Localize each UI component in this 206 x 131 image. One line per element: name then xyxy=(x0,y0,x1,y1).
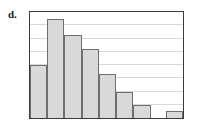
plot-area xyxy=(29,11,184,119)
bar xyxy=(47,19,64,118)
part-label: d. xyxy=(8,8,17,20)
bar xyxy=(166,111,183,118)
bar-series xyxy=(30,12,183,118)
histogram-figure: d. xyxy=(0,0,206,131)
bar xyxy=(30,65,47,118)
bar xyxy=(133,105,150,118)
bar xyxy=(82,49,99,118)
bar xyxy=(64,35,81,118)
bar xyxy=(99,74,116,118)
bar xyxy=(116,92,133,119)
